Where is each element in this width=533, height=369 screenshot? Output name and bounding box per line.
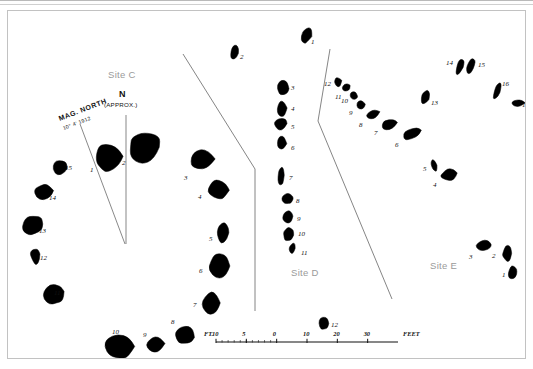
true-north-label: N xyxy=(119,89,126,99)
stone-marker xyxy=(283,211,293,223)
stone-marker xyxy=(230,45,240,60)
stone-number-label: 10 xyxy=(298,230,305,238)
stone-number-label: 4 xyxy=(291,105,295,113)
stone-number-label: 11 xyxy=(301,249,307,257)
stone-outline xyxy=(455,59,466,76)
stone-number-label: 10 xyxy=(112,328,119,336)
stone-outline xyxy=(333,76,343,87)
north-arrow-shaft-magnetic xyxy=(80,124,125,244)
stone-number-label: 8 xyxy=(171,318,175,326)
stone-outline xyxy=(129,132,160,164)
stone-outline xyxy=(402,126,423,142)
stone-marker xyxy=(366,108,382,120)
stone-marker xyxy=(402,126,423,142)
stone-number-label: 1 xyxy=(90,166,94,174)
stone-number-label: 7 xyxy=(374,129,378,137)
stone-number-label: 9 xyxy=(143,331,147,339)
scale-tick-label: 30 xyxy=(364,330,370,337)
stone-outline xyxy=(366,108,382,120)
stone-marker xyxy=(430,159,439,172)
stone-outline xyxy=(439,167,458,183)
stone-number-label: 10 xyxy=(341,97,348,105)
stone-marker xyxy=(465,58,476,75)
stone-number-label: 12 xyxy=(324,80,331,88)
stone-outline xyxy=(341,83,351,92)
stone-outline xyxy=(503,245,512,261)
stone-outline xyxy=(146,336,165,352)
true-north-sublabel: (APPROX.) xyxy=(104,101,137,108)
stone-marker xyxy=(356,99,367,110)
stone-outline xyxy=(274,119,287,131)
stone-marker xyxy=(475,239,492,253)
stone-outline xyxy=(208,253,230,278)
north-arrows-group xyxy=(80,115,126,244)
stone-outline xyxy=(278,167,285,185)
stone-number-label: 16 xyxy=(502,80,509,88)
stone-marker xyxy=(288,242,296,253)
stone-number-label: 9 xyxy=(297,215,301,223)
stone-outline xyxy=(202,292,221,315)
stone-number-label: 14 xyxy=(446,59,453,67)
stone-number-label: 7 xyxy=(289,174,293,182)
stone-marker xyxy=(283,227,295,241)
stone-number-label: 7 xyxy=(193,301,197,309)
stone-outline xyxy=(277,136,286,149)
stone-outline xyxy=(104,334,135,359)
site-label-site-e: Site E xyxy=(430,260,457,271)
stone-number-label: 1 xyxy=(311,38,315,46)
stone-number-label: 14 xyxy=(49,194,56,202)
stone-group-site-d xyxy=(230,26,329,329)
stone-marker xyxy=(277,80,289,94)
stone-outline xyxy=(319,317,329,329)
stone-number-label: 4 xyxy=(198,193,202,201)
stone-marker xyxy=(341,83,351,92)
stone-number-label: 8 xyxy=(296,197,300,205)
stone-marker xyxy=(282,193,293,203)
stone-outline xyxy=(94,142,124,173)
stone-marker xyxy=(277,101,287,116)
stone-outline xyxy=(356,99,367,110)
stone-outline xyxy=(508,266,518,280)
scale-prefix-label: FT. xyxy=(204,330,213,337)
stone-marker xyxy=(274,119,287,131)
stone-number-label: 6 xyxy=(395,141,399,149)
stone-marker xyxy=(208,180,230,199)
stone-outline xyxy=(283,211,293,223)
stone-number-label: 5 xyxy=(291,123,295,131)
stone-outline xyxy=(277,101,287,116)
stone-marker xyxy=(129,132,160,164)
stone-number-label: 9 xyxy=(349,109,353,117)
stone-marker xyxy=(277,136,286,149)
stone-number-label: 13 xyxy=(431,99,438,107)
stone-marker xyxy=(439,167,458,183)
stone-number-label: 11 xyxy=(54,289,60,297)
stone-group-site-e xyxy=(333,58,525,279)
stone-number-label: 6 xyxy=(291,144,295,152)
stone-outline xyxy=(465,58,476,75)
stone-number-label: 3 xyxy=(291,84,295,92)
stone-number-label: 1 xyxy=(502,271,506,279)
stone-marker xyxy=(455,59,466,76)
stone-marker xyxy=(419,89,431,105)
stone-outline xyxy=(475,239,492,253)
site-label-site-d: Site D xyxy=(291,267,319,278)
stone-marker xyxy=(146,336,165,352)
stone-number-label: 11 xyxy=(335,93,341,101)
stone-marker xyxy=(208,253,230,278)
stone-number-label: 2 xyxy=(492,252,496,260)
stone-number-label: 2 xyxy=(122,159,126,167)
scale-tick-label: 10 xyxy=(303,330,309,337)
scale-tick-label: 20 xyxy=(333,330,339,337)
stone-number-label: 15 xyxy=(65,164,72,172)
stone-outline xyxy=(190,148,216,170)
stone-number-label: 3 xyxy=(184,174,188,182)
stone-marker xyxy=(190,148,216,170)
stone-outline xyxy=(283,227,295,241)
stone-marker xyxy=(94,142,124,173)
scale-tick-label: 0 xyxy=(273,330,276,337)
stone-outline xyxy=(277,80,289,94)
stone-marker xyxy=(202,292,221,315)
stone-number-label: 12 xyxy=(331,321,338,329)
stone-marker xyxy=(503,245,512,261)
stone-outline xyxy=(349,91,358,101)
